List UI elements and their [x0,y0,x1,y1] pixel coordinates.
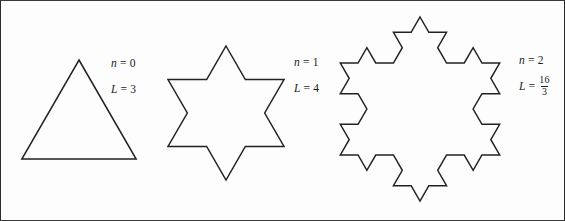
label-value-L: 3 [130,84,136,96]
label-length-n1: L = 4 [294,82,319,95]
fraction-numerator: 16 [538,75,550,86]
label-group-n0: n = 0 L = 3 [111,57,136,96]
label-var-n: n [111,58,120,70]
label-value-L: 4 [313,83,319,95]
label-var-L: L [294,83,304,95]
label-iteration-n1: n = 1 [294,56,319,69]
koch-shape-n2 [340,17,499,201]
label-equals: = [304,83,314,95]
koch-shape-n1 [168,46,284,180]
label-iteration-n2: n = 2 [519,54,551,67]
label-equals: = [529,81,539,93]
label-equals: = [303,57,313,69]
label-group-n2: n = 2 L = 16 3 [519,54,551,93]
label-group-n1: n = 1 L = 4 [294,56,319,95]
label-equals: = [121,84,131,96]
label-value-n: 0 [130,58,136,70]
label-var-L: L [519,81,529,93]
fraction-denominator: 3 [541,86,548,98]
label-var-L: L [111,84,121,96]
label-iteration-n0: n = 0 [111,57,136,70]
label-equals: = [528,55,538,67]
label-length-n2: L = 16 3 [519,80,551,93]
label-var-n: n [294,57,303,69]
label-value-n: 1 [313,57,319,69]
koch-figure-canvas [1,1,565,221]
label-length-n0: L = 3 [111,83,136,96]
fraction-sixteen-thirds: 16 3 [538,75,550,98]
label-var-n: n [519,55,528,67]
koch-snowflake-figure: n = 0 L = 3 n = 1 L = 4 n = 2 L = [0,0,565,221]
label-equals: = [120,58,130,70]
label-value-n: 2 [538,55,544,67]
